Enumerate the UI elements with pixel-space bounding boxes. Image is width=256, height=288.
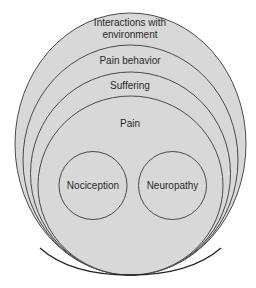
label-suffering: Suffering (110, 80, 150, 92)
label-interactions-line2: environment (94, 29, 166, 41)
label-neuropathy: Neuropathy (147, 180, 199, 192)
label-pain: Pain (120, 118, 140, 130)
label-interactions-line1: Interactions with (94, 17, 166, 29)
nested-ellipse-diagram (0, 0, 256, 288)
label-interactions-with-environment: Interactions with environment (94, 17, 166, 41)
label-nociception: Nociception (67, 180, 119, 192)
label-pain-behavior: Pain behavior (99, 55, 160, 67)
